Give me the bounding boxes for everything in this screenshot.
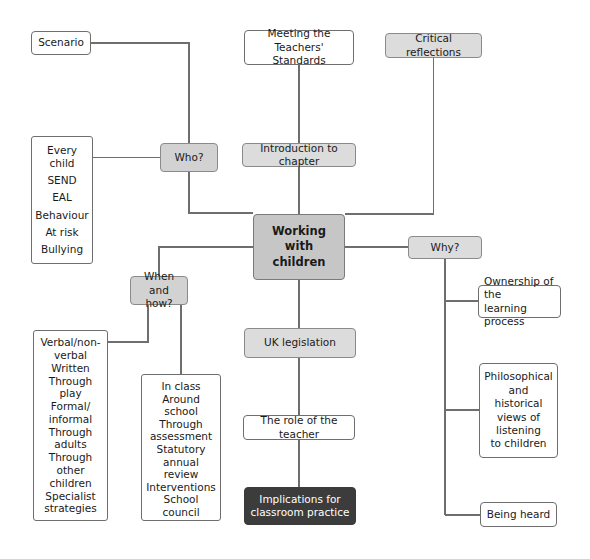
list-item: Specialist strategies (37, 490, 104, 515)
node-critical-reflections-label: Critical reflections (390, 32, 477, 59)
list-item-line2: assessment (145, 430, 217, 443)
node-introduction-to-chapter-label: Introduction to chapter (247, 142, 351, 169)
wire-scenario-to-who (91, 43, 190, 143)
list-item: Formal/ informal (37, 400, 104, 425)
wire-critical-to-hub (345, 58, 434, 214)
list-item: Around school (145, 393, 217, 418)
node-scenario[interactable]: Scenario (31, 31, 91, 55)
list-item: EAL (35, 191, 89, 204)
node-role-of-the-teacher[interactable]: The role of the teacher (243, 415, 355, 440)
node-meeting-standards-line2: Standards (249, 54, 349, 67)
list-item: Statutory annual review (145, 443, 217, 481)
node-being-heard[interactable]: Being heard (480, 502, 557, 527)
list-item: School council (145, 493, 217, 518)
list-item-line2: children (37, 477, 104, 490)
list-item: Behaviour (35, 209, 89, 222)
list-item: Bullying (35, 243, 89, 256)
list-item: At risk (35, 226, 89, 239)
concept-map-diagram: Scenario Every child SEND EAL Behaviour … (0, 0, 590, 559)
node-ownership-of-learning[interactable]: Ownership of the learning process (478, 285, 561, 318)
hub-title-line1: Working with (258, 224, 340, 255)
node-philosophical-line4: views of (484, 411, 553, 424)
list-item: Verbal/non- verbal (37, 336, 104, 361)
list-item-line1: Written (37, 362, 104, 375)
hub-title-line2: children (258, 255, 340, 271)
node-philosophical-line5: listening (484, 424, 553, 437)
list-item-line1: Around school (145, 393, 217, 418)
node-working-with-children-hub[interactable]: Working with children (253, 214, 345, 280)
node-uk-legislation-label: UK legislation (249, 336, 351, 349)
node-implications-line2: classroom practice (249, 506, 351, 519)
node-role-of-the-teacher-label: The role of the teacher (248, 414, 350, 441)
node-why-label: Why? (413, 241, 477, 254)
node-who-label: Who? (165, 151, 213, 164)
node-when-and-how-line1: When and (135, 270, 183, 297)
wire-who-to-hub (189, 172, 253, 213)
node-implications-for-classroom-practice[interactable]: Implications for classroom practice (244, 487, 356, 525)
list-item: Every child (35, 144, 89, 169)
list-item-line1: In class (145, 380, 217, 393)
list-item: Through adults (37, 426, 104, 451)
node-meeting-standards[interactable]: Meeting the Teachers' Standards (244, 30, 354, 65)
node-being-heard-label: Being heard (485, 508, 552, 521)
node-scenario-label: Scenario (36, 36, 86, 49)
list-item-line1: Through (145, 418, 217, 431)
list-item-line1: Verbal/non- (37, 336, 104, 349)
list-item: Through other children (37, 451, 104, 489)
list-item-line1: Through play (37, 375, 104, 400)
node-philosophical-views[interactable]: Philosophical and historical views of li… (479, 363, 558, 458)
node-how-methods-list[interactable]: Verbal/non- verbal Written Through play … (33, 330, 108, 521)
list-item: Written (37, 362, 104, 375)
list-item-line2: informal (37, 413, 104, 426)
node-when-and-how[interactable]: When and how? (130, 276, 188, 305)
node-philosophical-line3: historical (484, 397, 553, 410)
list-item-line1: Through adults (37, 426, 104, 451)
node-philosophical-line6: to children (484, 437, 553, 450)
list-item-line2: verbal (37, 349, 104, 362)
list-item-line1: Statutory annual (145, 443, 217, 468)
list-item: Through assessment (145, 418, 217, 443)
node-critical-reflections[interactable]: Critical reflections (385, 33, 482, 58)
list-item-line1: School council (145, 493, 217, 518)
node-who[interactable]: Who? (160, 143, 218, 172)
node-ownership-line2: learning process (484, 302, 556, 329)
list-item-line2: review (145, 468, 217, 481)
node-where-contexts-list[interactable]: In class Around school Through assessmen… (141, 374, 221, 521)
node-uk-legislation[interactable]: UK legislation (244, 328, 356, 358)
node-meeting-standards-line1: Meeting the Teachers' (249, 27, 349, 54)
list-item: Interventions (145, 481, 217, 494)
node-when-and-how-line2: how? (135, 297, 183, 310)
list-item-line1: Specialist (37, 490, 104, 503)
list-item-line1: Through other (37, 451, 104, 476)
list-item: Through play (37, 375, 104, 400)
node-introduction-to-chapter[interactable]: Introduction to chapter (242, 143, 356, 167)
list-item-line1: Interventions (145, 481, 217, 494)
list-item-line2: strategies (37, 502, 104, 515)
list-item: SEND (35, 174, 89, 187)
node-ownership-line1: Ownership of the (484, 275, 556, 302)
node-implications-line1: Implications for (249, 493, 351, 506)
list-item: In class (145, 380, 217, 393)
node-why[interactable]: Why? (408, 236, 482, 259)
list-item-line1: Formal/ (37, 400, 104, 413)
node-philosophical-line2: and (484, 384, 553, 397)
node-philosophical-line1: Philosophical (484, 370, 553, 383)
node-who-attributes-list[interactable]: Every child SEND EAL Behaviour At risk B… (31, 136, 93, 264)
